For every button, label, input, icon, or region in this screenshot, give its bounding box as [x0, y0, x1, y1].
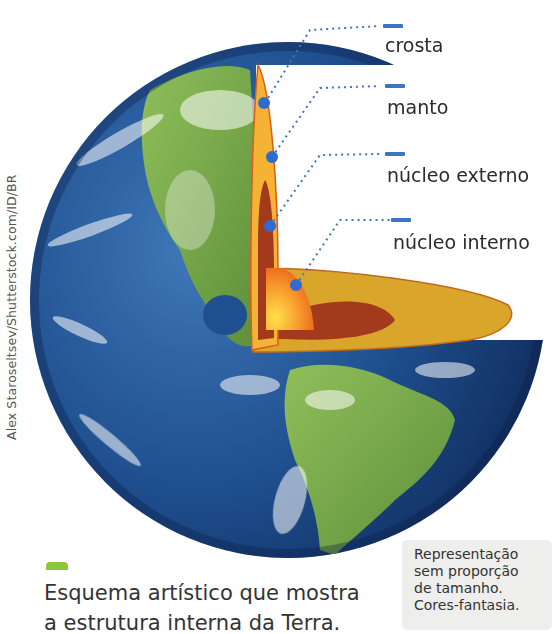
label-bar-inner-core: [391, 218, 411, 222]
note-line-2: sem proporção: [414, 563, 519, 580]
label-crust: crosta: [385, 34, 443, 56]
caption-accent-bar: [46, 562, 68, 570]
scale-note-box: Representação sem proporção de tamanho. …: [402, 540, 552, 630]
marker-crust: [258, 97, 270, 109]
label-bar-crust: [383, 24, 403, 28]
note-line-4: Cores-fantasia.: [414, 597, 519, 614]
label-outer-core: núcleo externo: [387, 164, 529, 186]
caption-line-2: a estrutura interna da Terra.: [44, 608, 360, 634]
caption-line-1: Esquema artístico que mostra: [44, 578, 360, 608]
note-line-3: de tamanho.: [414, 580, 519, 597]
note-line-1: Representação: [414, 546, 519, 563]
figure-caption: Esquema artístico que mostra a estrutura…: [44, 578, 360, 634]
label-bar-outer-core: [385, 152, 405, 156]
label-mantle: manto: [387, 96, 448, 118]
label-inner-core: núcleo interno: [393, 231, 530, 253]
marker-inner-core: [290, 279, 302, 291]
label-bar-mantle: [385, 84, 405, 88]
marker-outer-core: [264, 220, 276, 232]
marker-mantle: [266, 151, 278, 163]
